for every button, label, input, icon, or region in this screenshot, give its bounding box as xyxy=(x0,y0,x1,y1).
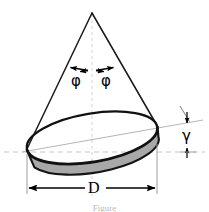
phi-left-label: φ xyxy=(71,74,81,89)
figure-caption-text: Figure xyxy=(0,203,209,212)
gamma-upper-leader xyxy=(180,106,190,122)
cone-diagram-canvas xyxy=(0,0,209,212)
gamma-label: γ xyxy=(182,129,191,144)
phi-right-label: φ xyxy=(101,74,111,89)
phi-left-inner-arrow xyxy=(80,71,88,72)
diameter-label: D xyxy=(88,180,100,196)
figure-caption-clipped: Figure xyxy=(0,203,209,212)
phi-right-arrow xyxy=(96,68,114,71)
cone-diagram-figure: φ φ γ D Figure xyxy=(0,0,209,212)
phi-left-arrow xyxy=(71,68,89,71)
cone-left-slant-line xyxy=(27,13,92,149)
cone-surface-shaded-band xyxy=(27,127,159,175)
